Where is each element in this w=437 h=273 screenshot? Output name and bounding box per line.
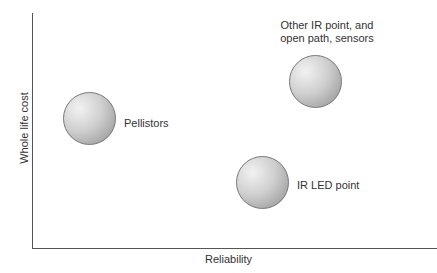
bubble-pellistors	[63, 92, 116, 145]
label-pellistors: Pellistors	[124, 117, 169, 130]
label-other-ir-line2: open path, sensors	[268, 32, 386, 45]
x-axis-label: Reliability	[205, 253, 252, 265]
label-ir-led: IR LED point	[297, 179, 359, 192]
x-axis	[32, 248, 437, 249]
y-axis	[32, 13, 33, 249]
bubble-other-ir	[289, 55, 342, 108]
label-other-ir: Other IR point, and open path, sensors	[268, 19, 386, 45]
label-other-ir-line1: Other IR point, and	[268, 19, 386, 32]
bubble-ir-led	[236, 156, 289, 209]
y-axis-label: Whole life cost	[18, 68, 30, 188]
